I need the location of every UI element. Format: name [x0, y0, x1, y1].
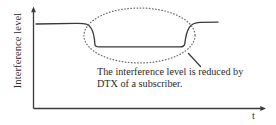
x-axis-label: t	[252, 110, 255, 121]
annotation-line-2: DTX of a subscriber.	[97, 78, 275, 90]
highlight-ellipse	[84, 8, 195, 63]
x-axis-arrowhead	[260, 106, 266, 111]
interference-level-diagram: Interference level t The interference le…	[0, 0, 276, 125]
annotation-line-1: The interference level is reduced by	[97, 66, 275, 78]
interference-level-curve	[36, 22, 218, 47]
diagram-canvas	[0, 0, 276, 125]
annotation-caption: The interference level is reduced by DTX…	[97, 66, 275, 89]
y-axis-label: Interference level	[12, 1, 23, 101]
y-axis	[31, 7, 36, 109]
x-axis	[34, 106, 267, 111]
annotation-leader-line	[189, 54, 201, 67]
y-axis-arrowhead	[31, 7, 36, 13]
